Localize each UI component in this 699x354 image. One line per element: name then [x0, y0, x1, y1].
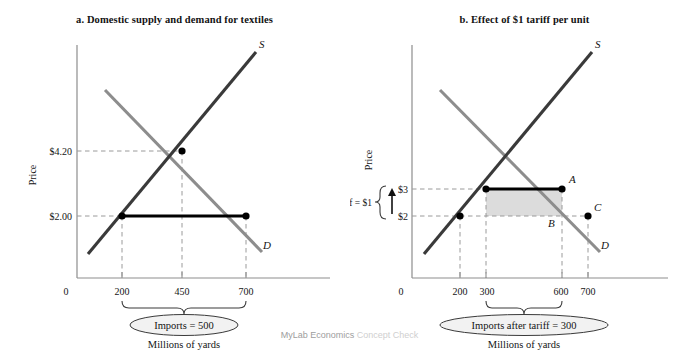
demand-curve-label: D [600, 239, 609, 251]
panel-domestic-supply-demand: a. Domestic supply and demand for textil… [0, 0, 349, 354]
quantity-supplied-point [118, 212, 125, 219]
tariff-label: Tariff = $1 [350, 198, 372, 208]
demand-curve [105, 90, 262, 252]
watermark-subtitle: Concept Check [357, 330, 419, 340]
panel-a-chart: S D $4.20 $2.00 Price 0 200 450 700 Impo… [0, 0, 349, 354]
supply-curve [424, 52, 592, 254]
imports-after-tariff-brace [486, 301, 562, 314]
x-tick-label-200: 200 [453, 286, 468, 297]
x-axis-label: Millions of yards [488, 339, 560, 350]
supply-curve-label: S [259, 38, 265, 50]
tariff-brace [375, 186, 386, 219]
point-label-a: A [568, 173, 576, 185]
x-tick-label-600: 600 [554, 286, 569, 297]
x-axis-label: Millions of yards [148, 339, 220, 350]
point-c-dot [584, 212, 591, 219]
demand-curve-label: D [262, 239, 271, 251]
supply-curve [88, 52, 256, 254]
x-tick-label-200: 200 [115, 286, 130, 297]
x-tick-label-450: 450 [175, 286, 190, 297]
point-label-b: B [548, 217, 555, 229]
tariff-arrow-head [388, 188, 396, 196]
equilibrium-point [178, 147, 185, 154]
supply-curve-label: S [595, 38, 601, 50]
pre-tariff-supply-point [456, 212, 463, 219]
demand-curve [440, 90, 600, 252]
y-tick-label-3: $3 [398, 184, 408, 195]
post-tariff-supply-point [482, 185, 489, 192]
mylab-watermark: MyLab Economics Concept Check [0, 330, 699, 340]
y-tick-label-2: $2 [398, 211, 408, 222]
y-tick-label-420: $4.20 [50, 146, 73, 157]
y-axis-label: Price [363, 149, 374, 170]
y-tick-label-200: $2.00 [50, 211, 73, 222]
x-tick-label-300: 300 [480, 286, 495, 297]
imports-brace [122, 301, 246, 314]
panel-b-chart: A B C S D $3 $2 Tariff = $1 Price 0 200 … [350, 0, 699, 354]
point-label-c: C [594, 201, 602, 213]
point-a-dot [558, 185, 565, 192]
origin-label: 0 [64, 286, 69, 297]
quantity-demanded-point [242, 212, 249, 219]
panel-tariff-effect: b. Effect of $1 tariff per unit A B [350, 0, 699, 354]
x-tick-label-700: 700 [581, 286, 596, 297]
origin-label: 0 [399, 286, 404, 297]
x-tick-label-700: 700 [239, 286, 254, 297]
watermark-brand: MyLab Economics [281, 330, 355, 340]
y-axis-label: Price [27, 164, 38, 185]
